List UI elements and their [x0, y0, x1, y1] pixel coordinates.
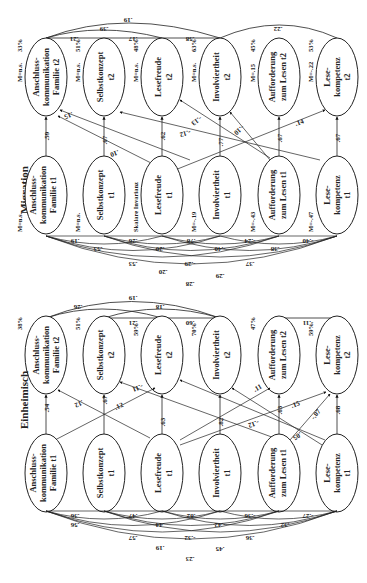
- coef-corr: -.24: [244, 237, 256, 245]
- coef-corr: -.29: [184, 260, 196, 268]
- node-label: Anschluss-: [28, 175, 38, 214]
- node-label: Lesefreude: [153, 453, 163, 493]
- coef-cross: .12: [73, 398, 85, 409]
- node-label: Lese-: [322, 67, 332, 87]
- coef-corr: .53: [128, 260, 137, 268]
- coef-cross: -.12: [178, 128, 191, 139]
- node-label: Aufforderung: [267, 169, 277, 220]
- coef-cross: .11: [252, 382, 264, 393]
- node-label: t2: [164, 73, 174, 80]
- node-label: t2: [106, 73, 116, 80]
- node-label: kompetenz: [332, 175, 342, 215]
- coef-corr: -.27: [302, 512, 314, 520]
- coef-cross: -.07: [309, 407, 323, 421]
- coef-corr: .20: [155, 245, 164, 253]
- coef-cross: -.11: [131, 382, 144, 393]
- r2-label: 45%: [249, 39, 256, 52]
- node-label: kompetenz: [332, 335, 342, 375]
- node-label: zum Lesen t1: [278, 171, 288, 219]
- node-label: zum Lesen t2: [278, 331, 288, 379]
- node-label: Involviertheit: [211, 330, 221, 380]
- node-label: t1: [106, 469, 116, 476]
- coef-corr: .32: [280, 521, 289, 529]
- r2-label: 53%: [307, 39, 314, 52]
- r2-label: 59%: [132, 323, 139, 336]
- mean-label: M=n.s.: [16, 62, 23, 82]
- coef-corr: .36: [245, 534, 254, 542]
- node-label: kommunikation: [41, 326, 51, 384]
- node-label: zum Lesen t2: [278, 53, 288, 101]
- node-label: Selbstkonzept: [95, 330, 105, 381]
- path-diagram: .19 .39 .21 .17 .58 .22 Anschluss- kommu…: [0, 0, 367, 583]
- node-label: t2: [222, 351, 232, 358]
- coef-stability: .62: [159, 131, 167, 140]
- node-label: Selbstkonzept: [95, 52, 105, 103]
- mean-label: M=-.47: [307, 211, 314, 232]
- coef-corr: -.40: [214, 245, 226, 253]
- node-label: t1: [342, 191, 352, 198]
- mean-label: M=n.s.: [190, 62, 197, 82]
- node-label: Familie t1: [48, 455, 58, 492]
- node-label: Familie t2: [51, 337, 61, 374]
- panel-title-einheimisch: Einheimisch: [18, 371, 30, 429]
- coef-corr: .23: [185, 555, 194, 563]
- node-label: Aufforderung: [267, 51, 277, 102]
- coef-corr: .38: [270, 245, 279, 253]
- panel-migration: .19 .39 .21 .17 .58 .22 Anschluss- kommu…: [16, 16, 358, 288]
- node-label: Involviertheit: [211, 52, 221, 102]
- coef-stability: .67: [101, 395, 109, 404]
- node-label: t2: [342, 351, 352, 358]
- coef-corr: .44: [155, 521, 164, 529]
- coef-corr: .26: [73, 303, 82, 311]
- r2-label: 47%: [249, 317, 256, 330]
- node-label: kommunikation: [38, 444, 48, 502]
- coef-corr: .47: [128, 512, 137, 520]
- coef-stability: .67: [334, 133, 342, 142]
- r2-label: 38%: [16, 317, 23, 330]
- node-label: zum Lesen t1: [278, 449, 288, 497]
- coef-corr: .19: [155, 544, 164, 552]
- node-label: kompetenz: [332, 453, 342, 493]
- r2-label: 51%: [74, 39, 81, 52]
- coef-m-t2-22: .22: [273, 25, 282, 33]
- coef-corr: .29: [215, 272, 224, 280]
- node-label: t1: [222, 191, 232, 198]
- node-label: Involviertheit: [211, 448, 221, 498]
- coef-cross: -.13: [189, 114, 203, 127]
- node-label: Familie t1: [48, 177, 58, 214]
- coef-stability: .54: [43, 403, 51, 412]
- r2-label: 48%: [132, 39, 139, 52]
- node-label: Anschluss-: [31, 335, 41, 374]
- node-label: t1: [222, 469, 232, 476]
- node-label: Lesefreude: [153, 335, 163, 375]
- node-label: Selbstkonzept: [95, 170, 105, 221]
- coef-corr: .53: [93, 245, 102, 253]
- coef-corr: .20: [158, 268, 167, 276]
- coef-corr: .45: [215, 545, 224, 553]
- node-label: Aufforderung: [267, 447, 277, 498]
- coef-stability: .68: [334, 405, 342, 414]
- mean-label: M=-.22: [307, 62, 314, 82]
- node-label: t1: [164, 191, 174, 198]
- node-label: t2: [222, 73, 232, 80]
- mean-label: M=.15: [249, 63, 256, 82]
- node-label: Aufforderung: [267, 329, 277, 380]
- node-label: Lese-: [322, 345, 332, 365]
- panel-einheimisch: .19 .26 .18 .21 .60 -.11 Anschluss- komm…: [16, 294, 358, 563]
- coef-cross: .15: [290, 399, 301, 410]
- r2-label: 59%: [307, 323, 314, 336]
- coef-corr: .78: [186, 237, 195, 245]
- coef-corr: .57: [128, 534, 137, 542]
- coef-corr: -.36: [244, 512, 256, 520]
- coef-corr: -.42: [214, 521, 226, 529]
- node-label: Lese-: [322, 463, 332, 483]
- coef-corr: .18: [155, 303, 164, 311]
- coef-stability: .77: [217, 137, 225, 146]
- r2-label: 63%: [190, 39, 197, 52]
- coef-stability: .63: [159, 417, 167, 426]
- node-label: kommunikation: [38, 166, 48, 224]
- node-label: t1: [342, 469, 352, 476]
- node-label: Anschluss-: [31, 57, 41, 96]
- coef-corr: .56: [70, 521, 79, 529]
- coef-m-t2-19: .19: [123, 16, 132, 24]
